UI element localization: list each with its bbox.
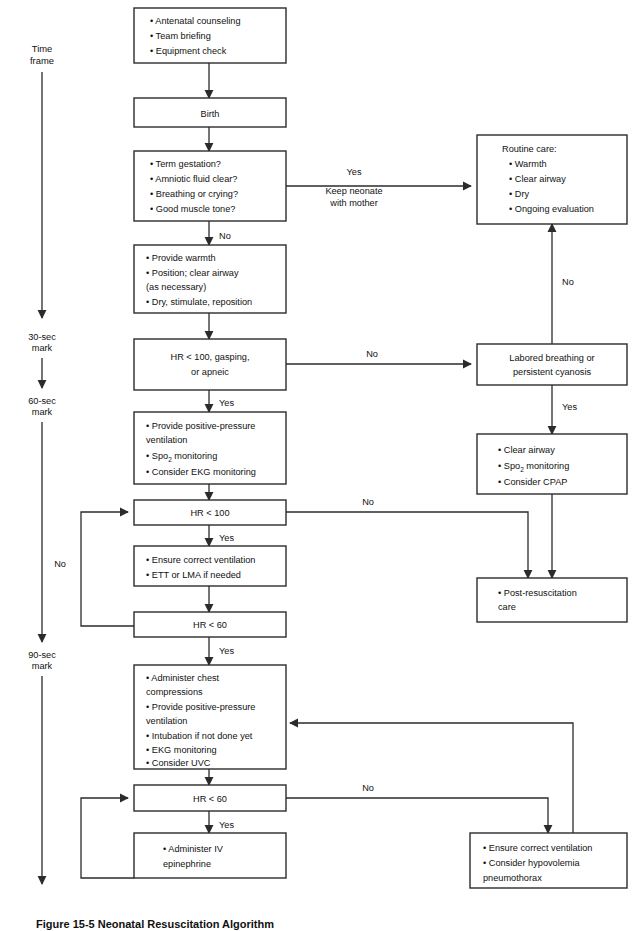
node-initial-steps-line-0: • Provide warmth (146, 253, 216, 263)
node-ppv-line-1: ventilation (146, 435, 187, 445)
node-initial-steps[interactable]: • Provide warmth • Position; clear airwa… (134, 245, 286, 313)
node-ppv-line-3: • Consider EKG monitoring (146, 467, 256, 477)
node-chest-compressions-line-6: • Consider UVC (146, 758, 211, 768)
node-epinephrine-line-0: • Administer IV (163, 844, 224, 854)
node-assessment[interactable]: • Term gestation? • Amniotic fluid clear… (134, 151, 286, 221)
edge-epi-loopback (81, 798, 134, 878)
node-chest-compressions-line-5: • EKG monitoring (146, 745, 217, 755)
node-routine-care-line-1: • Warmth (509, 159, 547, 169)
node-clear-airway-line-2: • Consider CPAP (498, 477, 567, 487)
edge-label-keep-neonate-l2: with mother (329, 198, 378, 208)
edge-label-keep-neonate-l1: Keep neonate (325, 186, 382, 196)
node-hr100-line-0: HR < 100 (190, 508, 229, 518)
node-hr100[interactable]: HR < 100 (134, 500, 286, 525)
node-labored-breathing-box[interactable] (477, 344, 627, 385)
node-assessment-line-0: • Term gestation? (150, 159, 221, 169)
node-ppv-line-0: • Provide positive-pressure (146, 421, 255, 431)
node-ppv[interactable]: • Provide positive-pressure ventilation … (134, 412, 286, 484)
edge-label-hr100-no: No (362, 497, 374, 507)
node-initial-steps-line-2: (as necessary) (146, 282, 206, 292)
node-prep-line-1: • Team briefing (150, 31, 211, 41)
edge-label-assess-yes: Yes (347, 167, 362, 177)
node-chest-compressions-line-0: • Administer chest (146, 673, 220, 683)
edge-label-hr100-yes: Yes (219, 533, 234, 543)
node-labored-breathing[interactable]: Labored breathing or persistent cyanosis (477, 344, 627, 385)
edge-ensurevent2-to-compressions (290, 723, 573, 833)
node-routine-care-line-0: Routine care: (502, 144, 557, 154)
node-ensure-ventilation-2[interactable]: • Ensure correct ventilation • Consider … (470, 833, 627, 888)
node-ensure-ventilation[interactable]: • Ensure correct ventilation • ETT or LM… (134, 546, 286, 586)
edge-hr60b-no-to-ensurevent2 (286, 798, 548, 833)
edge-hr60a-no-loopback (81, 512, 134, 626)
node-ppv-line-2: • Spo2 monitoring (146, 451, 217, 463)
timeline-mark-30s-line2: mark (32, 343, 53, 353)
node-clear-airway-line-0: • Clear airway (498, 445, 555, 455)
node-labored-breathing-line-0: Labored breathing or (509, 353, 594, 363)
node-post-resuscitation-box[interactable] (477, 578, 627, 622)
node-assessment-line-2: • Breathing or crying? (150, 189, 238, 199)
edge-hr100-no-to-postresus (286, 512, 528, 578)
node-chest-compressions-line-3: ventilation (146, 716, 187, 726)
node-labored-breathing-line-1: persistent cyanosis (513, 367, 592, 377)
node-post-resuscitation-line-1: care (498, 602, 516, 612)
edge-label-assess-no: No (219, 231, 231, 241)
node-prep[interactable]: • Antenatal counseling • Team briefing •… (134, 8, 286, 63)
node-hr60-b-line-0: HR < 60 (193, 794, 227, 804)
edge-labels: Yes Keep neonate with mother No No No Ye… (54, 167, 577, 830)
node-ensure-ventilation-box[interactable] (134, 546, 286, 586)
node-hr100-gasping[interactable]: HR < 100, gasping, or apneic (134, 339, 286, 390)
edge-label-hr100gasping-no: No (366, 349, 378, 359)
node-prep-line-0: • Antenatal counseling (150, 16, 241, 26)
node-hr60-b[interactable]: HR < 60 (134, 785, 286, 811)
timeline-mark-60s-line2: mark (32, 407, 53, 417)
edge-label-hr60b-no: No (362, 783, 374, 793)
node-routine-care-line-4: • Ongoing evaluation (509, 204, 594, 214)
edge-label-labored-yes: Yes (562, 402, 577, 412)
timeline-mark-60s-line1: 60-sec (28, 396, 56, 406)
node-hr100-gasping-box[interactable] (134, 339, 286, 390)
timeline-axis: Time frame 30-sec mark 60-sec mark 90-se… (28, 43, 56, 884)
node-chest-compressions-line-1: compressions (146, 687, 203, 697)
node-hr100-gasping-line-0: HR < 100, gasping, (171, 352, 250, 362)
edge-label-routine-no: No (562, 277, 574, 287)
edge-label-hr60a-no: No (54, 559, 66, 569)
figure-canvas: Time frame 30-sec mark 60-sec mark 90-se… (0, 0, 644, 931)
timeline-title-line1: Time (32, 43, 52, 54)
figure-caption: Figure 15-5 Neonatal Resuscitation Algor… (36, 918, 274, 930)
timeline-title-line2: frame (30, 55, 54, 66)
flowchart-svg: Time frame 30-sec mark 60-sec mark 90-se… (0, 0, 644, 931)
node-post-resuscitation-line-0: • Post-resuscitation (498, 588, 577, 598)
node-post-resuscitation[interactable]: • Post-resuscitation care (477, 578, 627, 622)
node-clear-airway-line-1: • Spo2 monitoring (498, 461, 569, 473)
node-birth-line-0: Birth (201, 109, 220, 119)
node-hr60-a-line-0: HR < 60 (193, 620, 227, 630)
timeline-mark-30s-line1: 30-sec (28, 332, 56, 342)
node-routine-care-line-2: • Clear airway (509, 174, 566, 184)
node-prep-line-2: • Equipment check (150, 46, 227, 56)
edge-label-hr100gasping-yes: Yes (219, 398, 234, 408)
node-ensure-ventilation-2-line-2: pneumothorax (483, 873, 542, 883)
node-epinephrine[interactable]: • Administer IV epinephrine (134, 833, 286, 878)
node-ensure-ventilation-2-line-1: • Consider hypovolemia (483, 858, 581, 868)
node-hr100-gasping-line-1: or apneic (191, 367, 229, 377)
node-routine-care-line-3: • Dry (509, 189, 529, 199)
node-clear-airway[interactable]: • Clear airway • Spo2 monitoring • Consi… (477, 434, 627, 494)
edge-label-hr60b-yes: Yes (219, 820, 234, 830)
node-ensure-ventilation-line-0: • Ensure correct ventilation (146, 555, 255, 565)
timeline-mark-90s-line1: 90-sec (28, 650, 56, 660)
node-epinephrine-line-1: epinephrine (163, 859, 211, 869)
node-epinephrine-box[interactable] (134, 833, 286, 878)
node-assessment-line-1: • Amniotic fluid clear? (150, 174, 237, 184)
node-initial-steps-line-3: • Dry, stimulate, reposition (146, 297, 252, 307)
node-ensure-ventilation-line-1: • ETT or LMA if needed (146, 570, 241, 580)
node-routine-care[interactable]: Routine care: • Warmth • Clear airway • … (477, 135, 627, 224)
node-chest-compressions-line-4: • Intubation if not done yet (146, 731, 253, 741)
node-chest-compressions-line-2: • Provide positive-pressure (146, 702, 255, 712)
node-birth[interactable]: Birth (134, 98, 286, 127)
edge-label-hr60a-yes: Yes (219, 646, 234, 656)
node-chest-compressions[interactable]: • Administer chest compressions • Provid… (134, 665, 286, 769)
node-initial-steps-line-1: • Position; clear airway (146, 268, 239, 278)
timeline-mark-90s-line2: mark (32, 661, 53, 671)
node-hr60-a[interactable]: HR < 60 (134, 612, 286, 637)
node-ensure-ventilation-2-line-0: • Ensure correct ventilation (483, 843, 592, 853)
